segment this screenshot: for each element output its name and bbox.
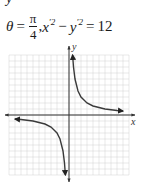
hyperbola-branch-quadrant-1 <box>73 55 123 111</box>
y-axis-label: y <box>71 41 77 52</box>
hyperbola-branch-quadrant-3 <box>15 119 65 175</box>
x-axis-label: x <box>130 116 136 127</box>
hyperbola-graph: y x <box>0 0 143 184</box>
